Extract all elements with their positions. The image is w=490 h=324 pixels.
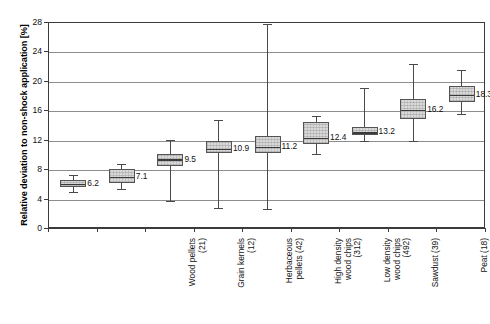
- whisker-cap-lower: [312, 154, 321, 155]
- median-line: [61, 184, 85, 185]
- y-tick-mark: [44, 140, 48, 141]
- x-tick-mark: [339, 228, 340, 232]
- box-value-label: 9.5: [184, 155, 196, 163]
- median-line: [256, 147, 280, 148]
- plot-area: 6.27.19.510.911.212.413.216.218.3: [48, 22, 485, 228]
- whisker-cap-upper: [69, 175, 78, 176]
- x-axis-label-4: High density wood chips (312): [334, 238, 363, 324]
- x-axis-label-7: Peat (18): [480, 238, 490, 324]
- median-line: [353, 132, 377, 133]
- x-tick-mark: [97, 228, 98, 232]
- median-line: [450, 95, 474, 96]
- boxplot-1[interactable]: 6.2: [60, 23, 86, 229]
- whisker-cap-upper: [360, 88, 369, 89]
- box-iqr: [352, 127, 378, 134]
- box-iqr: [303, 122, 329, 144]
- whisker-cap-upper: [312, 116, 321, 117]
- whisker-cap-lower: [117, 189, 126, 190]
- whisker-cap-upper: [409, 64, 418, 65]
- x-tick-mark: [194, 228, 195, 232]
- whisker-cap-lower: [166, 201, 175, 202]
- boxplot-5[interactable]: 11.2: [255, 23, 281, 229]
- boxplot-chart: Relative deviation to non-shock applicat…: [0, 0, 490, 324]
- x-tick-mark: [48, 228, 49, 232]
- whisker-line: [170, 140, 171, 201]
- y-tick-label: 4: [12, 195, 42, 203]
- box-value-label: 16.2: [427, 105, 443, 113]
- box-iqr: [206, 141, 232, 154]
- x-tick-mark: [485, 228, 486, 232]
- whisker-line: [218, 120, 219, 208]
- median-line: [110, 177, 134, 178]
- y-tick-label: 8: [12, 165, 42, 173]
- boxplot-9[interactable]: 18.3: [449, 23, 475, 229]
- whisker-cap-lower: [457, 114, 466, 115]
- whisker-cap-upper: [166, 140, 175, 141]
- y-tick-mark: [44, 51, 48, 52]
- box-value-label: 6.2: [87, 179, 99, 187]
- y-tick-mark: [44, 110, 48, 111]
- box-iqr: [60, 180, 86, 187]
- box-value-label: 11.2: [282, 142, 298, 150]
- box-value-label: 13.2: [379, 127, 395, 135]
- x-axis-label-1: Wood pellets (21): [188, 238, 207, 324]
- boxplot-7[interactable]: 13.2: [352, 23, 378, 229]
- median-line: [207, 149, 231, 150]
- x-tick-mark: [436, 228, 437, 232]
- x-tick-mark: [145, 228, 146, 232]
- whisker-cap-upper: [214, 120, 223, 121]
- box-value-label: 7.1: [136, 172, 148, 180]
- x-tick-mark: [291, 228, 292, 232]
- whisker-line: [267, 24, 268, 209]
- y-tick-label: 28: [12, 18, 42, 26]
- box-iqr: [157, 154, 183, 167]
- x-tick-mark: [242, 228, 243, 232]
- whisker-cap-lower: [360, 141, 369, 142]
- y-tick-label: 20: [12, 77, 42, 85]
- x-tick-mark: [388, 228, 389, 232]
- box-iqr: [449, 86, 475, 101]
- x-axis-label-6: Sawdust (39): [431, 238, 441, 324]
- boxplot-6[interactable]: 12.4: [303, 23, 329, 229]
- boxplot-3[interactable]: 9.5: [157, 23, 183, 229]
- whisker-cap-upper: [263, 24, 272, 25]
- box-iqr: [255, 136, 281, 154]
- median-line: [401, 110, 425, 111]
- y-tick-mark: [44, 22, 48, 23]
- box-iqr: [400, 99, 426, 120]
- box-value-label: 10.9: [233, 144, 249, 152]
- boxplot-2[interactable]: 7.1: [109, 23, 135, 229]
- y-tick-label: 24: [12, 47, 42, 55]
- box-iqr: [109, 169, 135, 183]
- x-axis-label-2: Grain kernels (12): [237, 238, 256, 324]
- x-axis-label-3: Herbaceous pellets (42): [285, 238, 304, 324]
- boxplot-8[interactable]: 16.2: [400, 23, 426, 229]
- y-axis-title: Relative deviation to non-shock applicat…: [19, 5, 29, 245]
- whisker-cap-lower: [263, 209, 272, 210]
- median-line: [304, 138, 328, 139]
- boxplot-4[interactable]: 10.9: [206, 23, 232, 229]
- y-tick-label: 0: [12, 224, 42, 232]
- whisker-cap-lower: [214, 208, 223, 209]
- y-tick-label: 12: [12, 136, 42, 144]
- x-axis-label-5: Low density wood chips (492): [383, 238, 412, 324]
- y-tick-mark: [44, 169, 48, 170]
- y-tick-label: 16: [12, 106, 42, 114]
- median-line: [158, 159, 182, 160]
- whisker-cap-lower: [409, 141, 418, 142]
- whisker-cap-upper: [117, 164, 126, 165]
- y-tick-mark: [44, 81, 48, 82]
- box-value-label: 18.3: [476, 90, 490, 98]
- y-tick-mark: [44, 199, 48, 200]
- whisker-cap-upper: [457, 70, 466, 71]
- whisker-cap-lower: [69, 192, 78, 193]
- box-value-label: 12.4: [330, 133, 346, 141]
